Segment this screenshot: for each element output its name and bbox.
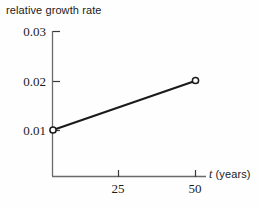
- x-axis-units: (years): [216, 168, 251, 180]
- x-tick-label-25: 25: [101, 181, 135, 197]
- x-axis-title: t (years): [209, 167, 251, 182]
- data-point-marker-end: [192, 77, 198, 83]
- growth-rate-chart: relative growth rate 0.03 0.02 0.01 25 5…: [0, 0, 260, 207]
- y-tick-label-002: 0.02: [6, 74, 46, 90]
- y-tick-label-001: 0.01: [6, 123, 46, 139]
- data-point-marker-start: [50, 127, 56, 133]
- x-tick-label-50: 50: [178, 181, 212, 197]
- y-tick-label-003: 0.03: [6, 24, 46, 40]
- data-line-segment: [53, 81, 195, 130]
